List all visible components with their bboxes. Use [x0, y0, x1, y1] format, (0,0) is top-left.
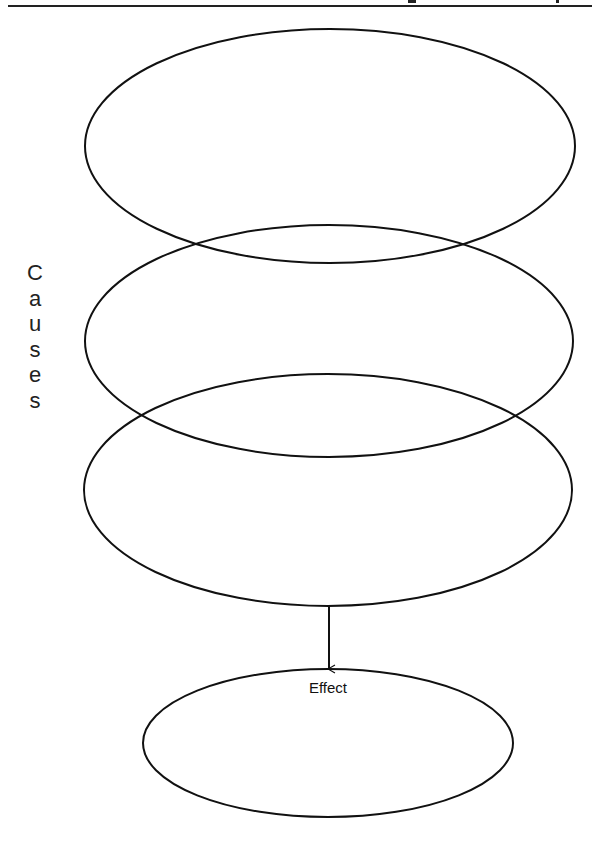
causes-letter: a [25, 286, 45, 312]
causes-letter: C [25, 260, 45, 286]
cause-ellipse-1 [85, 29, 575, 263]
causes-letter: u [25, 311, 45, 337]
causes-letter: s [25, 337, 45, 363]
causes-letter: s [25, 388, 45, 414]
cause-ellipse-3 [84, 374, 572, 606]
causes-letter: e [25, 362, 45, 388]
cause-effect-diagram [0, 0, 602, 841]
effect-label: Effect [278, 679, 378, 696]
cause-ellipse-2 [85, 225, 573, 457]
causes-label: C a u s e s [25, 260, 45, 413]
